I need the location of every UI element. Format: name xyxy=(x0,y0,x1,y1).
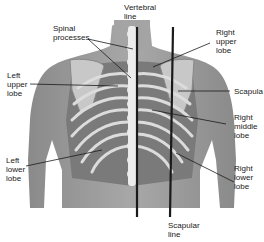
label-scapular-line: Scapular line xyxy=(168,221,200,239)
spinal-column xyxy=(127,26,137,186)
posterior-thorax-diagram: Vertebral line Spinal processes Right up… xyxy=(0,0,264,242)
label-right-middle-lobe: Right middle lobe xyxy=(234,113,258,140)
label-scapula: Scapula xyxy=(234,87,263,96)
label-vertebral-line: Vertebral line xyxy=(124,3,156,21)
label-left-upper-lobe: Left upper lobe xyxy=(7,71,27,98)
label-right-upper-lobe: Right upper lobe xyxy=(216,28,236,55)
label-right-lower-lobe: Right lower lobe xyxy=(234,164,253,191)
label-left-lower-lobe: Left lower lobe xyxy=(6,156,25,183)
label-spinal-processes: Spinal processes xyxy=(53,24,89,42)
